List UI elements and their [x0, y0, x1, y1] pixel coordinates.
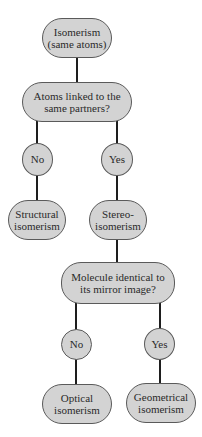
node-text-line2: same partners?: [33, 102, 120, 115]
node-text-line1: Structural: [14, 208, 60, 221]
connector-no-structural: [36, 175, 38, 201]
node-optical-isomerism: Opticalisomerism: [42, 384, 112, 424]
node-text-line2: isomerism: [54, 404, 100, 417]
node-text: No: [31, 153, 44, 166]
node-q2-no: No: [61, 329, 92, 360]
connector-yes-stereo: [116, 175, 118, 201]
node-text: Yes: [109, 153, 125, 166]
node-isomerism: Isomerism(same atoms): [42, 18, 112, 58]
node-text: No: [70, 338, 83, 351]
node-mirror-image-question: Molecule identical toits mirror image?: [61, 262, 175, 304]
connector-root-q1: [76, 57, 78, 83]
node-text-line2: its mirror image?: [71, 283, 164, 296]
node-q1-no: No: [22, 143, 53, 176]
node-text-line2: isomerism: [14, 220, 60, 233]
connector-stereo-q2: [116, 239, 118, 263]
connector-no-optical: [75, 359, 77, 385]
node-text-line1: Isomerism: [48, 26, 107, 39]
node-q2-yes: Yes: [144, 328, 175, 360]
node-atoms-linked-question: Atoms linked to thesame partners?: [22, 82, 132, 122]
connector-q1-no: [36, 121, 38, 144]
node-stereo-isomerism: Stereo-isomerism: [89, 200, 147, 240]
node-text-line2: isomerism: [134, 403, 188, 416]
node-text-line1: Geometrical: [134, 391, 188, 404]
node-text-line1: Atoms linked to the: [33, 90, 120, 103]
connector-yes-geometrical: [159, 359, 161, 384]
node-text-line1: Molecule identical to: [71, 271, 164, 284]
node-text-line1: Stereo-: [95, 208, 141, 221]
node-text-line2: (same atoms): [48, 38, 107, 51]
node-text-line2: isomerism: [95, 220, 141, 233]
connector-q2-no: [75, 303, 77, 330]
connector-q2-yes: [159, 303, 161, 330]
node-geometrical-isomerism: Geometricalisomerism: [126, 383, 196, 423]
node-q1-yes: Yes: [101, 143, 133, 176]
node-structural-isomerism: Structuralisomerism: [8, 200, 66, 240]
node-text: Yes: [151, 338, 167, 351]
node-text-line1: Optical: [54, 392, 100, 405]
connector-q1-yes: [116, 121, 118, 144]
